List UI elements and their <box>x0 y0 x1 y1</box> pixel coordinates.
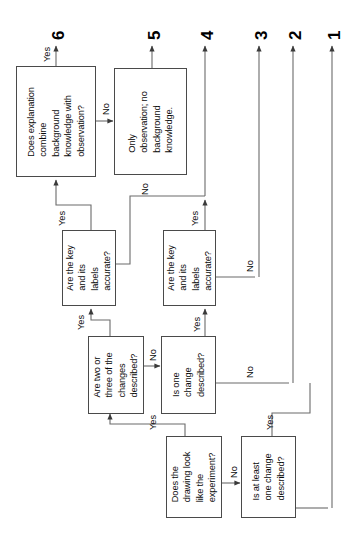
terminal-2-label: 2 <box>287 40 296 57</box>
edge-label-drawing-look-yes: Yes <box>148 430 163 440</box>
node-label: Are two or three of the changes describe… <box>91 352 141 397</box>
node-label: Only observation; no background knowledg… <box>126 91 176 152</box>
node-key-and-labels-accurate-lower[interactable]: Are the key and its labels accurate? <box>163 230 216 306</box>
terminal-3-label: 3 <box>253 40 262 57</box>
terminal-1-label: 1 <box>326 40 335 57</box>
node-label: Does explanation combine background know… <box>25 87 87 156</box>
edge-label-drawing-look-no: No <box>229 478 241 488</box>
node-does-explanation-combine[interactable]: Does explanation combine background know… <box>16 66 96 177</box>
node-only-observation[interactable]: Only observation; no background knowledg… <box>114 68 187 175</box>
node-is-at-least-one-change-described[interactable]: Is at least one change described? <box>241 436 296 518</box>
edge-label-key-upper-no: No <box>140 195 152 205</box>
node-label: Are the key and its labels accurate? <box>165 245 215 290</box>
node-label: Does the drawing look like the experimen… <box>169 452 219 502</box>
edge-label-explanation-no: No <box>101 115 113 125</box>
node-two-or-three-changes-described[interactable]: Are two or three of the changes describe… <box>88 336 144 414</box>
node-label: Are the key and its labels accurate? <box>64 245 114 290</box>
terminal-5-label: 5 <box>146 40 155 57</box>
node-does-drawing-look-like-experiment[interactable]: Does the drawing look like the experimen… <box>166 436 222 518</box>
flowchart-canvas: 6 5 4 3 2 1 Yes No Yes No Yes No Yes No … <box>0 0 359 537</box>
edge-label-one-change-no: No <box>245 378 257 388</box>
node-label: Is at least one change described? <box>250 453 287 500</box>
node-label: Is one change described? <box>170 353 207 397</box>
terminal-4-label: 4 <box>199 40 208 57</box>
edge-label-two-or-three-no: No <box>148 361 160 371</box>
edge-label-key-lower-no: No <box>245 272 257 282</box>
node-key-and-labels-accurate-upper[interactable]: Are the key and its labels accurate? <box>62 230 116 306</box>
node-is-one-change-described[interactable]: Is one change described? <box>161 336 216 414</box>
